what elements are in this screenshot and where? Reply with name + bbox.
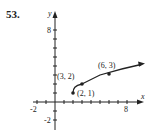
y-axis-arrow-icon (53, 11, 58, 18)
label-2-1: (2, 1) (77, 89, 95, 98)
x-tick-label-8: 8 (124, 105, 128, 114)
y-tick-label-neg2: -2 (44, 116, 51, 125)
point-6-3 (107, 72, 111, 76)
x-tick-label-neg2: -2 (30, 105, 37, 114)
curve-arrow-icon (138, 62, 145, 67)
y-tick-label-8: 8 (47, 26, 51, 35)
label-6-3: (6, 3) (98, 61, 116, 70)
label-3-2: (3, 2) (57, 72, 75, 81)
point-3-2 (80, 82, 84, 86)
point-2-1 (71, 91, 75, 95)
graph: x y -2 8 8 -2 (2, 1) (3, 2) (6, 3) (0, 0, 156, 138)
x-axis-label: x (140, 92, 145, 101)
y-axis-label: y (47, 9, 52, 18)
